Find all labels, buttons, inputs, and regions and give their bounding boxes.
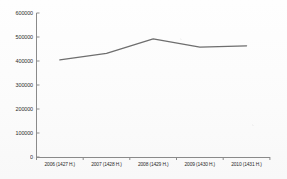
y-tick-label-300000: 300000 [0,81,33,88]
data-series-line [60,39,247,60]
y-tick-label-200000: 200000 [0,105,33,112]
chart-plot-area [0,0,287,179]
y-tick-label-600000: 600000 [0,9,33,16]
x-tick-label-2006: 2006 (1427 H.) [34,162,86,168]
x-tick-label-2009: 2009 (1430 H.) [174,162,226,168]
y-tick-label-100000: 100000 [0,129,33,136]
y-tick-label-500000: 500000 [0,33,33,40]
x-tick-label-2007: 2007 (1428 H.) [81,162,133,168]
line-chart-figure: 600000 500000 400000 300000 200000 10000… [0,0,287,179]
y-tick-label-400000: 400000 [0,57,33,64]
x-tick-label-2008: 2008 (1429 H.) [127,162,179,168]
y-tick-label-0: 0 [0,153,33,160]
x-tick-label-2010: 2010 (1431 H.) [221,162,273,168]
